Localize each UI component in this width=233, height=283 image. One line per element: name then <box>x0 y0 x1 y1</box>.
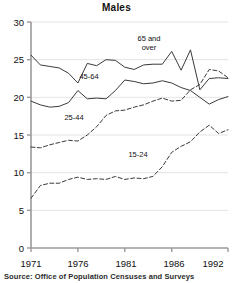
x-tick-label-1986: 1986 <box>157 258 191 269</box>
y-tick-label-0: 0 <box>2 243 24 254</box>
y-tick-label-20: 20 <box>2 92 24 103</box>
series-label-65-and-over-line2: over <box>142 43 157 52</box>
x-tick-label-1981: 1981 <box>109 258 143 269</box>
series-label-15-24: 15-24 <box>126 150 150 159</box>
series-label-25-44: 25-44 <box>62 113 86 122</box>
x-tick-label-1971: 1971 <box>14 258 48 269</box>
chart-plot-area <box>0 0 233 283</box>
series-line-15-24 <box>31 125 228 198</box>
x-tick-label-1992: 1992 <box>196 258 230 269</box>
source-note: Source: Office of Population Censuses an… <box>4 272 194 281</box>
series-label-45-64: 45-64 <box>77 72 101 81</box>
y-tick-label-25: 25 <box>2 54 24 65</box>
chart-container: Males 30 25 20 15 10 5 0 1971 1976 1981 … <box>0 0 233 283</box>
y-tick-label-10: 10 <box>2 167 24 178</box>
y-tick-label-15: 15 <box>2 130 24 141</box>
series-label-65-and-over: 65 and over <box>131 34 167 52</box>
y-tick-label-30: 30 <box>2 17 24 28</box>
x-tick-label-1976: 1976 <box>61 258 95 269</box>
y-tick-label-5: 5 <box>2 205 24 216</box>
series-label-65-and-over-line1: 65 and <box>138 34 161 43</box>
series-line-65-and-over <box>31 50 228 90</box>
